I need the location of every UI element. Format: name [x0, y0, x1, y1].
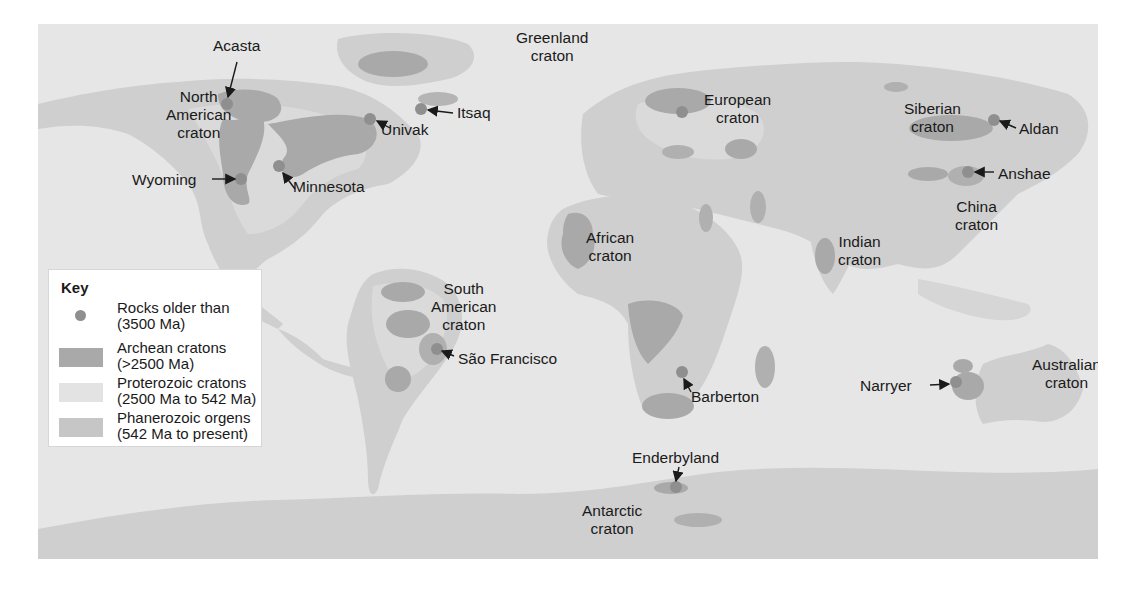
- africa-archean-3: [699, 204, 713, 232]
- legend-item-phanerozoic: Phanerozoic orgens(542 Ma to present): [59, 410, 259, 444]
- map-legend: Key Rocks older than(3500 Ma) Archean cr…: [48, 269, 262, 447]
- legend-label: Archean cratons: [117, 339, 226, 356]
- africa-archean-4: [750, 191, 766, 223]
- legend-label: Proterozoic cratons: [117, 374, 246, 391]
- antarctica-landmass: [38, 468, 1098, 559]
- site-label-barberton: Barberton: [691, 388, 759, 406]
- site-dot-narryer: [950, 376, 962, 388]
- site-dot-european: [676, 106, 688, 118]
- site-label-acasta: Acasta: [213, 37, 260, 55]
- legend-item-archean: Archean cratons(>2500 Ma): [59, 340, 259, 374]
- site-label-minnesota: Minnesota: [293, 178, 365, 196]
- greenland-archean: [358, 51, 428, 77]
- craton-label-indian: Indiancraton: [838, 233, 881, 269]
- site-label-anshae: Anshae: [998, 165, 1051, 183]
- legend-sublabel: (2500 Ma to 542 Ma): [117, 390, 256, 407]
- australia-archean-1: [953, 359, 973, 373]
- legend-label: Rocks older than: [117, 299, 230, 316]
- craton-label-african: Africancraton: [586, 229, 634, 265]
- china-archean: [908, 167, 948, 181]
- legend-sublabel: (>2500 Ma): [117, 355, 194, 372]
- site-dot-barberton: [676, 366, 688, 378]
- craton-label-antarctic: Antarcticcraton: [582, 502, 642, 538]
- southeast-asia-islands: [918, 279, 1031, 320]
- site-label-narryer: Narryer: [860, 377, 912, 395]
- legend-sublabel: (3500 Ma): [117, 315, 185, 332]
- legend-title: Key: [61, 279, 89, 296]
- craton-label-north-american: NorthAmericancraton: [166, 88, 231, 142]
- site-dot-enderbyland: [670, 481, 682, 493]
- site-label-sao-francisco: São Francisco: [458, 350, 557, 368]
- south-america-archean-2: [386, 310, 430, 338]
- european-archean-3: [662, 145, 694, 159]
- phanerozoic-swatch-icon: [59, 418, 103, 437]
- craton-label-china: Chinacraton: [955, 198, 998, 234]
- site-label-enderbyland: Enderbyland: [632, 449, 719, 467]
- site-dot-wyoming: [235, 173, 247, 185]
- south-america-archean-1: [381, 282, 425, 302]
- craton-label-greenland: Greenlandcraton: [516, 29, 588, 65]
- craton-label-south-american: SouthAmericancraton: [431, 280, 496, 334]
- legend-item-old-rocks: Rocks older than(3500 Ma): [59, 300, 259, 334]
- legend-item-proterozoic: Proterozoic cratons(2500 Ma to 542 Ma): [59, 375, 259, 409]
- site-label-wyoming: Wyoming: [132, 171, 196, 189]
- site-dot-aldan: [988, 114, 1000, 126]
- legend-label: Phanerozoic orgens: [117, 409, 250, 426]
- old-rock-dot-icon: [75, 310, 86, 321]
- european-archean-2: [725, 139, 757, 159]
- craton-label-european: Europeancraton: [704, 91, 771, 127]
- site-label-univak: Univak: [381, 121, 428, 139]
- southern-africa-archean: [642, 393, 694, 419]
- site-dot-itsaq: [415, 103, 427, 115]
- south-america-archean-4: [385, 366, 411, 392]
- madagascar: [755, 346, 775, 388]
- archean-swatch-icon: [59, 348, 103, 367]
- world-craton-map: NorthAmericancraton Greenlandcraton Euro…: [38, 24, 1098, 559]
- site-label-aldan: Aldan: [1019, 120, 1059, 138]
- craton-label-siberian: Siberiancraton: [904, 100, 961, 136]
- legend-sublabel: (542 Ma to present): [117, 425, 248, 442]
- indian-archean: [815, 238, 835, 274]
- site-dot-anshae: [962, 166, 974, 178]
- antarctica-archean-2: [674, 513, 722, 527]
- craton-label-australian: Australiancraton: [1032, 356, 1098, 392]
- site-dot-minnesota: [273, 160, 285, 172]
- site-dot-sao-francisco: [431, 343, 443, 355]
- site-label-itsaq: Itsaq: [457, 104, 491, 122]
- proterozoic-swatch-icon: [59, 383, 103, 402]
- site-dot-univak: [364, 113, 376, 125]
- siberian-archean-2: [884, 82, 908, 92]
